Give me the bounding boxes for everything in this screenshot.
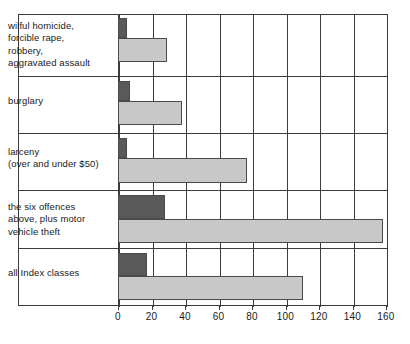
category-label: larceny (over and under $50)	[8, 146, 100, 171]
bar-chart-figure: wilful homicide, forcible rape, robbery,…	[0, 0, 410, 344]
bar-dark[interactable]	[118, 138, 127, 158]
x-tick	[319, 306, 320, 310]
category-label: burglary	[8, 95, 100, 107]
bar-dark[interactable]	[118, 253, 147, 276]
bar-dark[interactable]	[118, 81, 130, 101]
chart-row: burglary	[0, 77, 370, 133]
x-tick	[286, 306, 287, 310]
bar-light[interactable]	[118, 38, 167, 62]
x-tick	[118, 306, 119, 310]
label-line: robbery,	[8, 45, 100, 57]
category-label: all Index classes	[8, 267, 100, 279]
label-line: forcible rape,	[8, 32, 100, 44]
bar-light[interactable]	[118, 158, 247, 183]
x-axis-line	[18, 305, 388, 306]
category-label: the six offences above, plus motor vehic…	[8, 201, 100, 238]
chart-row: wilful homicide, forcible rape, robbery,…	[0, 14, 370, 76]
bar-light[interactable]	[118, 219, 383, 243]
label-line: burglary	[8, 95, 100, 107]
label-line: wilful homicide,	[8, 20, 100, 32]
x-tick	[353, 306, 354, 310]
label-line: all Index classes	[8, 267, 100, 279]
bar-light[interactable]	[118, 276, 303, 300]
gridline-160	[387, 15, 388, 307]
x-tick-label: 160	[366, 311, 406, 322]
label-line: above, plus motor	[8, 213, 100, 225]
label-line: aggravated assault	[8, 57, 100, 69]
label-line: vehicle theft	[8, 226, 100, 238]
label-line: the six offences	[8, 201, 100, 213]
x-tick	[152, 306, 153, 310]
bar-light[interactable]	[118, 101, 182, 125]
label-line: larceny	[8, 146, 100, 158]
label-line: (over and under $50)	[8, 158, 100, 170]
x-tick	[219, 306, 220, 310]
category-label: wilful homicide, forcible rape, robbery,…	[8, 20, 100, 70]
bar-dark[interactable]	[118, 195, 165, 219]
bar-dark[interactable]	[118, 18, 127, 38]
x-tick	[386, 306, 387, 310]
x-tick	[185, 306, 186, 310]
x-tick	[252, 306, 253, 310]
